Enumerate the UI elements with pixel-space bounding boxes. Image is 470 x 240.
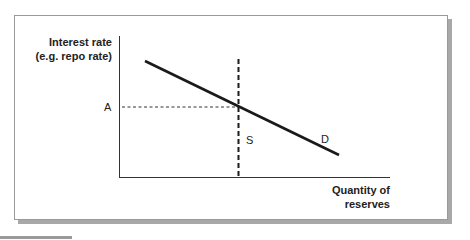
level-a-label: A xyxy=(104,100,111,114)
demand-label: D xyxy=(321,132,329,146)
x-axis-label: Quantity of reserves xyxy=(300,183,390,211)
supply-label: S xyxy=(246,133,253,147)
y-axis-label-line1: Interest rate xyxy=(20,35,112,49)
y-axis-label-line2: (e.g. repo rate) xyxy=(20,49,112,63)
x-axis-label-line1: Quantity of xyxy=(300,183,390,197)
y-axis-label: Interest rate (e.g. repo rate) xyxy=(20,35,112,63)
demand-line xyxy=(145,61,339,155)
x-axis-label-line2: reserves xyxy=(300,197,390,211)
